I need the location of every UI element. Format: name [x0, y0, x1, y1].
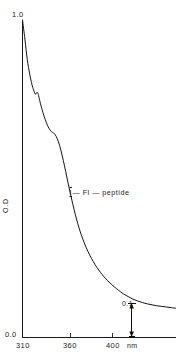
series-annotation-rest: — Fl — peptide: [73, 188, 130, 197]
x-tick-label-310: 310: [16, 341, 30, 350]
spectrum-figure: 1.0 0.0 O.D 310 360 400 nm I— Fl — pepti…: [0, 0, 176, 359]
scale-bar-group: [128, 303, 136, 337]
scale-bar-value-label: 0.1: [122, 300, 133, 307]
x-tick-label-360: 360: [63, 341, 77, 350]
y-axis-max-label: 1.0: [12, 10, 24, 19]
plot-canvas: [0, 0, 176, 359]
absorption-curve: [23, 20, 177, 308]
y-axis-min-label: 0.0: [5, 330, 17, 339]
x-axis-unit-label: nm: [127, 342, 138, 349]
series-annotation-label: I— Fl — peptide: [69, 188, 129, 197]
y-axis-title: O.D: [2, 198, 9, 213]
x-tick-label-400: 400: [106, 341, 120, 350]
